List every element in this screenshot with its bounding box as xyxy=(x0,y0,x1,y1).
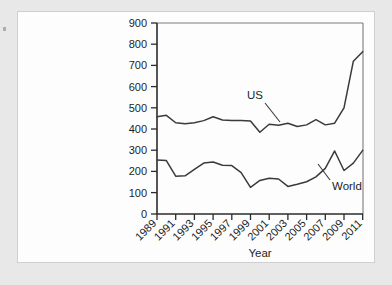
y-tick-label: 0 xyxy=(141,208,147,220)
series-annotation-world: World xyxy=(332,180,362,192)
y-tick-label: 800 xyxy=(129,38,147,50)
chart-figure: 900 800 700 600 500 400 300 200 100 0 xyxy=(17,11,375,263)
x-tick-label: 2011 xyxy=(339,217,364,242)
x-axis-tick-labels: 1989 1991 1993 1995 1997 1999 2001 2003 … xyxy=(133,217,364,243)
line-chart-canvas: 900 800 700 600 500 400 300 200 100 0 xyxy=(18,12,374,262)
series-annotation-us: US xyxy=(247,89,263,101)
y-tick-label: 400 xyxy=(129,123,147,135)
y-tick-label: 500 xyxy=(129,102,147,114)
scan-artifact xyxy=(3,27,6,31)
y-axis-tick-labels: 900 800 700 600 500 400 300 200 100 0 xyxy=(129,17,147,220)
y-tick-label: 900 xyxy=(129,17,147,29)
y-tick-label: 100 xyxy=(129,187,147,199)
x-axis-title: Year xyxy=(248,247,271,259)
y-tick-label: 600 xyxy=(129,81,147,93)
y-axis-ticks xyxy=(151,23,157,214)
y-tick-label: 200 xyxy=(129,165,147,177)
y-tick-label: 300 xyxy=(129,144,147,156)
y-tick-label: 700 xyxy=(129,59,147,71)
world-leader-line xyxy=(318,164,330,180)
us-leader-line xyxy=(265,103,280,122)
